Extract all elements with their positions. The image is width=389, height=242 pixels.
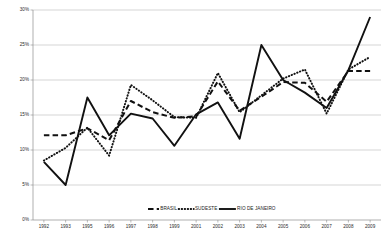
legend-label: SUDESTE [195,206,218,211]
x-tick-label: 2002 [213,224,224,229]
x-tick-label: 1997 [126,224,137,229]
line-chart: 0%5%10%15%20%25%30% 19921993199519961997… [0,0,389,242]
legend-label: BRASIL [160,206,177,211]
x-tick-label: 1993 [61,224,72,229]
y-tick-label: 0% [22,217,29,222]
x-tick-label: 1992 [39,224,50,229]
x-tick-label: 2008 [343,224,354,229]
x-tick-label: 2001 [191,224,202,229]
x-tick-label: 2003 [235,224,246,229]
y-tick-label: 25% [20,42,29,47]
x-tick-label: 2007 [322,224,333,229]
y-tick-label: 10% [20,147,29,152]
x-tick-label: 2005 [278,224,289,229]
y-tick-label: 5% [22,182,29,187]
x-tick-label: 1995 [82,224,93,229]
x-tick-label: 1998 [148,224,159,229]
x-tick-label: 2006 [300,224,311,229]
x-tick-label: 2004 [256,224,267,229]
chart-legend: BRASILSUDESTERIO DE JANEIRO [148,206,276,211]
y-tick-label: 30% [20,7,29,12]
y-tick-label: 15% [20,112,29,117]
y-tick-label: 20% [20,77,29,82]
x-tick-label: 2009 [365,224,376,229]
x-tick-label: 1996 [104,224,115,229]
x-tick-label: 1999 [169,224,180,229]
legend-label: RIO DE JANEIRO [237,206,276,211]
chart-container: 0%5%10%15%20%25%30% 19921993199519961997… [0,0,389,242]
